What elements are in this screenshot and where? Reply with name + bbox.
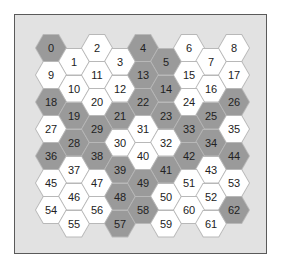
hex-grid: 0123456789101112131415161718192021222324…	[0, 0, 282, 267]
